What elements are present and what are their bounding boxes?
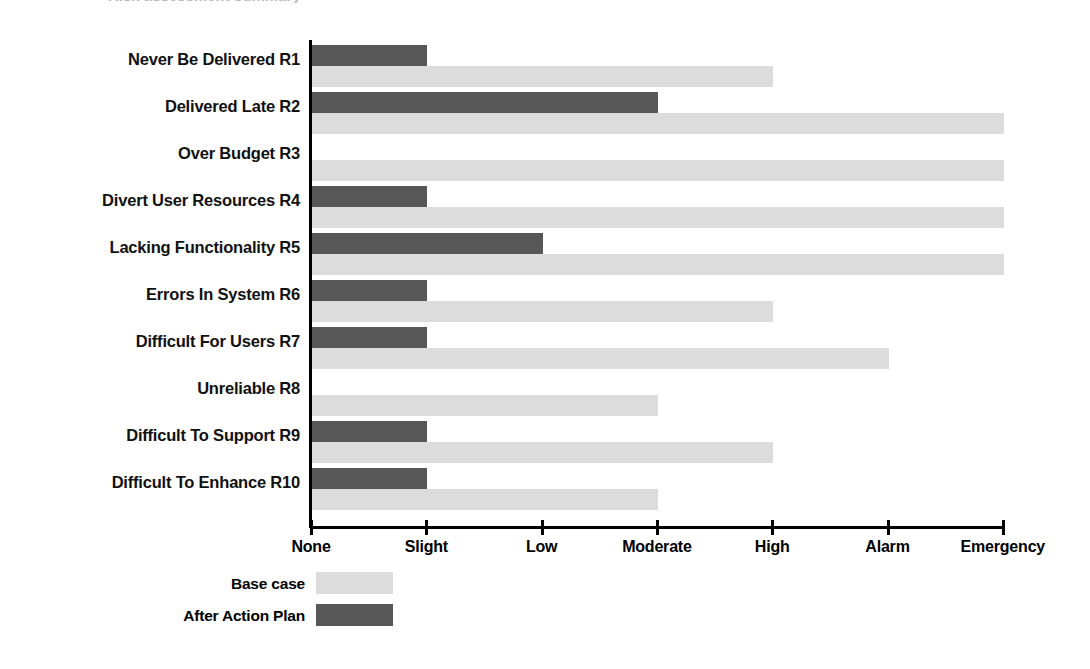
x-axis-tick <box>310 520 313 535</box>
bar-base-case <box>312 489 658 510</box>
category-label: Difficult To Support R9 <box>0 426 300 445</box>
chart-row: Divert User Resources R4 <box>0 183 1090 230</box>
chart-row: Difficult To Support R9 <box>0 418 1090 465</box>
x-axis-tick-label: Low <box>526 538 557 556</box>
chart-row: Errors In System R6 <box>0 277 1090 324</box>
x-axis-tick <box>887 520 890 535</box>
x-axis-tick <box>541 520 544 535</box>
bar-base-case <box>312 160 1004 181</box>
chart-row: Difficult For Users R7 <box>0 324 1090 371</box>
chart-canvas: Risk assessment summary Never Be Deliver… <box>0 0 1090 669</box>
bar-after-action-plan <box>312 92 658 113</box>
x-axis-tick-label: Moderate <box>622 538 692 556</box>
chart-row: Over Budget R3 <box>0 136 1090 183</box>
x-axis-tick <box>1002 520 1005 535</box>
category-label: Delivered Late R2 <box>0 97 300 116</box>
category-label: Divert User Resources R4 <box>0 191 300 210</box>
bar-after-action-plan <box>312 280 427 301</box>
x-axis-tick-label: None <box>291 538 330 556</box>
bar-after-action-plan <box>312 421 427 442</box>
category-label: Errors In System R6 <box>0 285 300 304</box>
legend-item-label: Base case <box>0 575 305 593</box>
x-axis-tick-label: Alarm <box>865 538 909 556</box>
bar-base-case <box>312 442 773 463</box>
bar-after-action-plan <box>312 186 427 207</box>
x-axis-tick-label: Emergency <box>961 538 1045 556</box>
category-label: Difficult For Users R7 <box>0 332 300 351</box>
legend-item-swatch <box>316 604 393 626</box>
category-label: Never Be Delivered R1 <box>0 50 300 69</box>
x-axis-tick <box>771 520 774 535</box>
category-label: Unreliable R8 <box>0 379 300 398</box>
bar-base-case <box>312 207 1004 228</box>
x-axis-tick-label: High <box>755 538 790 556</box>
legend-item-label: After Action Plan <box>0 607 305 625</box>
x-axis-tick <box>425 520 428 535</box>
legend-item-swatch <box>316 572 393 594</box>
bar-base-case <box>312 66 773 87</box>
category-label: Over Budget R3 <box>0 144 300 163</box>
bar-base-case <box>312 254 1004 275</box>
legend-item: Base case <box>0 572 1090 602</box>
bar-base-case <box>312 113 1004 134</box>
bar-after-action-plan <box>312 468 427 489</box>
chart-legend: Base caseAfter Action Plan <box>0 572 1090 642</box>
x-axis: NoneSlightLowModerateHighAlarmEmergency <box>0 526 1090 570</box>
bar-after-action-plan <box>312 233 543 254</box>
chart-row: Difficult To Enhance R10 <box>0 465 1090 512</box>
bar-after-action-plan <box>312 327 427 348</box>
chart-row: Lacking Functionality R5 <box>0 230 1090 277</box>
chart-row: Delivered Late R2 <box>0 89 1090 136</box>
category-label: Difficult To Enhance R10 <box>0 473 300 492</box>
chart-row: Never Be Delivered R1 <box>0 42 1090 89</box>
category-label: Lacking Functionality R5 <box>0 238 300 257</box>
x-axis-tick-label: Slight <box>405 538 448 556</box>
chart-row: Unreliable R8 <box>0 371 1090 418</box>
bar-base-case <box>312 348 889 369</box>
bar-base-case <box>312 395 658 416</box>
x-axis-tick <box>656 520 659 535</box>
bar-base-case <box>312 301 773 322</box>
bar-after-action-plan <box>312 45 427 66</box>
legend-item: After Action Plan <box>0 604 1090 634</box>
plot-area: Never Be Delivered R1Delivered Late R2Ov… <box>0 38 1090 528</box>
cropped-title-remnant: Risk assessment summary <box>108 0 808 3</box>
